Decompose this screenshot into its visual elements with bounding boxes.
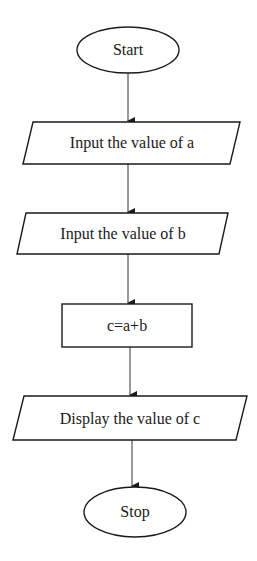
start-label: Start: [113, 41, 144, 58]
output-c-parallelogram: Display the value of c: [13, 396, 247, 440]
input-b-label: Input the value of b: [60, 225, 185, 243]
output-c-label: Display the value of c: [60, 410, 200, 428]
start-terminator: Start: [77, 27, 179, 73]
input-b-parallelogram: Input the value of b: [17, 213, 228, 254]
process-label: c=a+b: [107, 317, 147, 334]
flowchart: Start Input the value of a Input the val…: [0, 0, 257, 561]
stop-terminator: Stop: [84, 487, 186, 537]
stop-label: Stop: [120, 503, 149, 521]
process-rectangle: c=a+b: [62, 304, 192, 347]
input-a-label: Input the value of a: [70, 134, 194, 152]
input-a-parallelogram: Input the value of a: [23, 122, 240, 164]
